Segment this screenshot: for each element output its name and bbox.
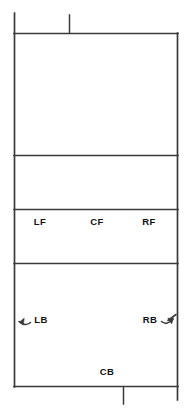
zone-label-lb: LB: [34, 315, 47, 325]
zone-label-cf: CF: [90, 217, 103, 227]
zone-label-rb: RB: [143, 315, 158, 325]
court-outline-svg: [0, 0, 193, 409]
left-back-arrow: [19, 318, 31, 325]
court-dividers: [14, 156, 178, 264]
zone-label-cb: CB: [100, 367, 115, 377]
right-back-arrow: [162, 315, 177, 324]
left-back-arrow-head: [20, 318, 25, 325]
court-boundary: [14, 13, 178, 400]
zone-label-rf: RF: [142, 217, 155, 227]
court-diagram: LF CF RF LB RB CB: [0, 0, 193, 409]
zone-label-lf: LF: [34, 217, 46, 227]
